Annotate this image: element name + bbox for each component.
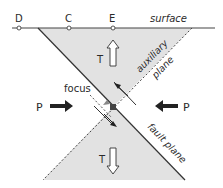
point-c-label: C: [65, 13, 72, 24]
surface-label: surface: [150, 13, 187, 24]
point-d-marker: [17, 26, 21, 30]
point-e-marker: [111, 26, 115, 30]
p-axis-left-label: P: [36, 101, 43, 114]
point-d-label: D: [15, 13, 23, 24]
point-e-label: E: [109, 13, 115, 24]
point-c-marker: [67, 26, 71, 30]
pressure-arrow-left-icon: [155, 100, 178, 112]
t-axis-top-label: T: [96, 54, 104, 65]
focus-label: focus: [64, 83, 91, 94]
focal-mechanism-diagram: D C E surface T T P P focus auxiliary pl…: [0, 0, 223, 188]
pressure-arrow-right-icon: [50, 100, 73, 112]
focus-point-icon: [110, 104, 116, 110]
t-axis-bottom-label: T: [98, 154, 106, 165]
p-axis-right-label: P: [183, 101, 190, 114]
